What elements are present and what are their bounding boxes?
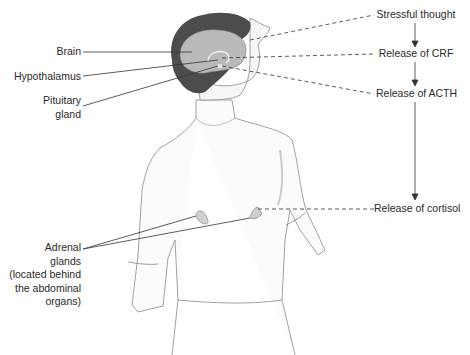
- label-adrenal-line5: organs): [9, 295, 81, 309]
- label-adrenal-line2: glands: [9, 255, 81, 269]
- label-pituitary-line1: Pituitary: [43, 94, 81, 108]
- flow-step-release-cortisol: Release of cortisol: [374, 202, 458, 216]
- flow-step-release-acth: Release of ACTH: [376, 87, 456, 101]
- label-adrenal-glands: Adrenal glands (located behind the abdom…: [9, 241, 81, 309]
- label-adrenal-line4: the abdominal: [9, 282, 81, 296]
- label-hypothalamus: Hypothalamus: [14, 70, 81, 84]
- flow-step-release-crf: Release of CRF: [376, 47, 456, 61]
- label-adrenal-line1: Adrenal: [9, 241, 81, 255]
- left-adrenal-gland: [196, 211, 208, 224]
- label-brain: Brain: [56, 45, 81, 59]
- flow-step-stressful-thought: Stressful thought: [376, 8, 456, 22]
- torso-outline: [132, 118, 196, 355]
- label-pituitary-gland: Pituitary gland: [43, 94, 81, 121]
- brain-region: [180, 30, 246, 73]
- label-adrenal-line3: (located behind: [9, 268, 81, 282]
- label-pituitary-line2: gland: [43, 108, 81, 122]
